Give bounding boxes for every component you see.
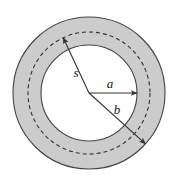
radius-label-s: s xyxy=(73,65,78,80)
radius-label-b: b xyxy=(114,102,121,117)
annulus-figure: s a b xyxy=(0,0,179,183)
annulus-diagram-svg: s a b xyxy=(0,0,179,183)
radius-label-a: a xyxy=(107,76,114,91)
